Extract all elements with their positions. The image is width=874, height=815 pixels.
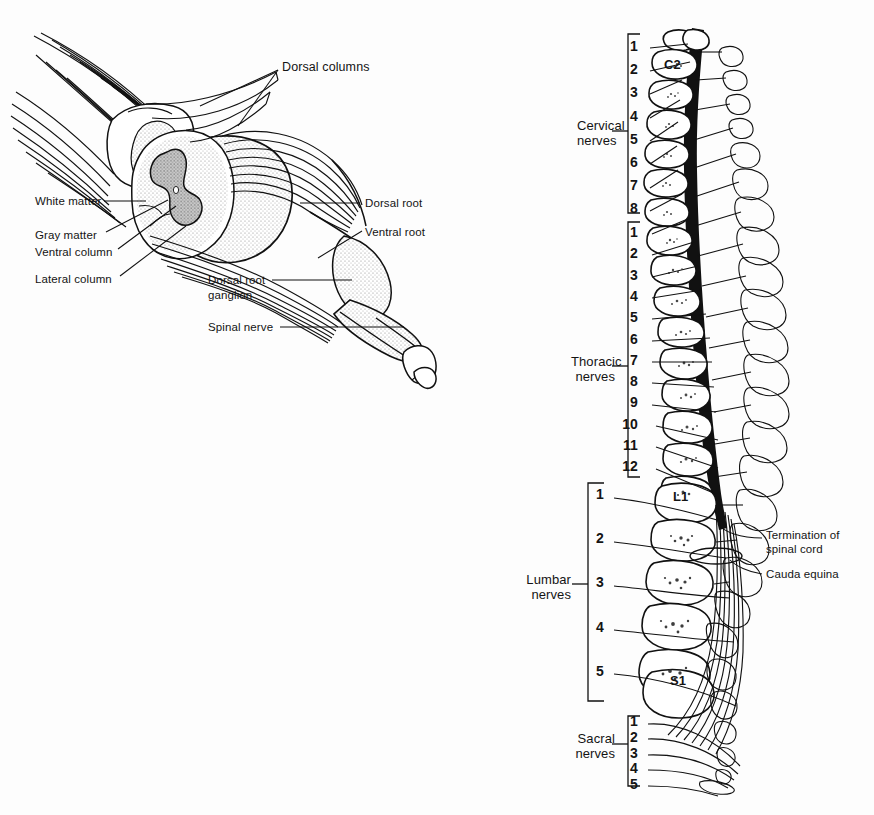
- nerve-number-thoracic-2: 2: [620, 246, 638, 262]
- nerve-number-cervical-6: 6: [620, 155, 638, 171]
- nerve-number-lumbar-5: 5: [586, 664, 604, 680]
- vertebra-label-l1: L1: [673, 490, 688, 505]
- nerve-number-cervical-2: 2: [620, 62, 638, 78]
- nerve-number-lumbar-4: 4: [586, 620, 604, 636]
- spinous-processes: [706, 46, 789, 657]
- label-gray-matter: Gray matter: [35, 229, 97, 242]
- nerve-number-thoracic-5: 5: [620, 310, 638, 326]
- group-label-thoracic-line-1: Thoracic: [571, 355, 615, 370]
- label-dorsal-columns: Dorsal columns: [282, 60, 370, 74]
- nerve-number-cervical-8: 8: [620, 201, 638, 217]
- vertebra-label-c2: C2: [664, 58, 681, 73]
- vertebral-column-drawing: [520, 0, 874, 815]
- nerve-number-thoracic-3: 3: [620, 268, 638, 284]
- nerve-number-sacral-5: 5: [620, 777, 638, 793]
- group-label-lumbar-line-2: nerves: [521, 588, 571, 603]
- nerve-number-thoracic-8: 8: [620, 374, 638, 390]
- nerve-number-thoracic-10: 10: [620, 417, 638, 433]
- nerve-number-sacral-3: 3: [620, 746, 638, 762]
- label-white-matter: White matter: [35, 195, 101, 208]
- spinal-nerve-trunk: [334, 300, 436, 388]
- label-lateral-column: Lateral column: [35, 273, 112, 286]
- nerve-number-thoracic-4: 4: [620, 289, 638, 305]
- label-ventral-column: Ventral column: [35, 246, 112, 259]
- label-dorsal-root-ganglion-line-2: ganglion: [208, 289, 252, 302]
- group-label-cervical-line-2: nerves: [577, 134, 615, 149]
- label-termination-of-spinal-cord-line-2: spinal cord: [766, 543, 823, 556]
- nerve-number-cervical-5: 5: [620, 132, 638, 148]
- nerve-number-thoracic-11: 11: [620, 438, 638, 454]
- nerve-number-sacral-1: 1: [620, 714, 638, 730]
- label-dorsal-root-ganglion-line-1: Dorsal root: [208, 274, 265, 287]
- dorsal-columns-leader: [200, 70, 278, 126]
- nerve-number-lumbar-1: 1: [586, 487, 604, 503]
- nerve-number-thoracic-9: 9: [620, 395, 638, 411]
- nerve-number-thoracic-7: 7: [620, 353, 638, 369]
- label-dorsal-root: Dorsal root: [365, 197, 422, 210]
- nerve-number-cervical-7: 7: [620, 178, 638, 194]
- label-termination-of-spinal-cord-line-1: Termination of: [766, 529, 840, 542]
- group-label-thoracic-line-2: nerves: [571, 370, 615, 385]
- sacral-nerve-roots: [648, 724, 740, 796]
- vertebra-label-s1: S1: [670, 674, 686, 689]
- nerve-number-lumbar-3: 3: [586, 575, 604, 591]
- nerve-number-thoracic-12: 12: [620, 459, 638, 475]
- nerve-number-thoracic-6: 6: [620, 332, 638, 348]
- nerve-number-cervical-1: 1: [620, 39, 638, 55]
- nerve-number-sacral-2: 2: [620, 730, 638, 746]
- nerve-number-cervical-3: 3: [620, 85, 638, 101]
- spinal-cord-segment-drawing: [0, 0, 470, 420]
- label-spinal-nerve: Spinal nerve: [208, 321, 273, 334]
- label-cauda-equina: Cauda equina: [766, 568, 839, 581]
- group-label-cervical-line-1: Cervical: [577, 119, 615, 134]
- nerve-number-cervical-4: 4: [620, 109, 638, 125]
- figure-canvas: Dorsal columns White matter Gray matter …: [0, 0, 874, 815]
- nerve-number-lumbar-2: 2: [586, 531, 604, 547]
- cord-main-cylinder: [132, 131, 292, 263]
- nerve-number-thoracic-1: 1: [620, 225, 638, 241]
- nerve-number-sacral-4: 4: [620, 761, 638, 777]
- group-label-lumbar-line-1: Lumbar: [521, 573, 571, 588]
- group-label-sacral-line-2: nerves: [569, 747, 615, 762]
- lumbar-vertebrae: [639, 483, 716, 698]
- group-label-sacral-line-1: Sacral: [569, 732, 615, 747]
- label-ventral-root: Ventral root: [365, 226, 425, 239]
